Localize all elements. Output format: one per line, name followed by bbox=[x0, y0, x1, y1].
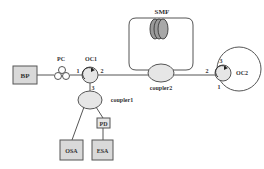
osa-box: OSA bbox=[60, 140, 83, 160]
oc1-circulator bbox=[82, 67, 98, 83]
coupler1-ellipse bbox=[78, 91, 102, 109]
esa-box: ESA bbox=[92, 140, 113, 160]
coupler1-label: coupler1 bbox=[111, 97, 133, 103]
osa-label: OSA bbox=[65, 148, 78, 154]
oc1-label: OC1 bbox=[85, 56, 97, 62]
coupler2-ellipse bbox=[148, 64, 174, 82]
pc-label: PC bbox=[57, 56, 65, 62]
oc1-port-2: 2 bbox=[101, 68, 104, 74]
optical-setup-diagram: BP PC OC1 1 2 3 SMF coupler2 OC2 2 3 1 c… bbox=[0, 0, 264, 169]
oc2-circulator bbox=[215, 65, 231, 81]
line-coupler1-pd bbox=[96, 107, 103, 118]
smf-coil-icon bbox=[150, 19, 168, 39]
polarization-controller bbox=[55, 67, 70, 80]
coupler2-label: coupler2 bbox=[150, 85, 172, 91]
pd-label: PD bbox=[100, 121, 109, 127]
oc1-port-1: 1 bbox=[77, 68, 80, 74]
oc2-port-3: 3 bbox=[220, 58, 223, 64]
oc2-label: OC2 bbox=[236, 70, 248, 76]
pc-paddle-icon bbox=[63, 73, 70, 80]
esa-label: ESA bbox=[97, 148, 109, 154]
line-coupler1-osa bbox=[72, 107, 84, 140]
pc-paddle-icon bbox=[55, 73, 62, 80]
bp-box: BP bbox=[13, 66, 37, 84]
smf-label: SMF bbox=[155, 8, 170, 16]
oc1-port-3: 3 bbox=[92, 85, 95, 91]
oc2-port-1: 1 bbox=[218, 84, 221, 90]
bp-label: BP bbox=[21, 72, 31, 80]
pd-box: PD bbox=[97, 118, 110, 128]
oc2-port-2: 2 bbox=[206, 68, 209, 74]
